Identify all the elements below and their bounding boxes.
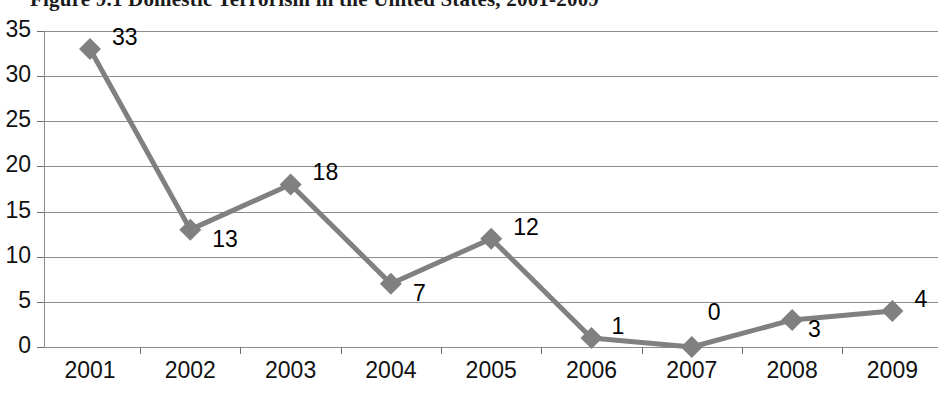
data-point-label: 13: [212, 226, 238, 253]
data-point-label: 0: [708, 299, 721, 326]
data-series: [0, 0, 938, 398]
data-point-label: 12: [513, 214, 539, 241]
data-point-marker: [179, 219, 201, 241]
data-point-label: 18: [313, 159, 339, 186]
data-point-label: 4: [914, 286, 927, 313]
data-point-marker: [681, 336, 703, 358]
chart-container: Figure 9.1 Domestic Terrorism in the Uni…: [0, 0, 938, 398]
data-point-label: 7: [413, 280, 426, 307]
data-point-label: 1: [612, 313, 625, 340]
data-point-label: 3: [808, 316, 821, 343]
data-point-marker: [79, 38, 101, 60]
data-point-marker: [881, 300, 903, 322]
series-line: [90, 49, 892, 347]
series-markers: [79, 38, 903, 358]
data-point-marker: [781, 309, 803, 331]
data-point-label: 33: [112, 24, 138, 51]
